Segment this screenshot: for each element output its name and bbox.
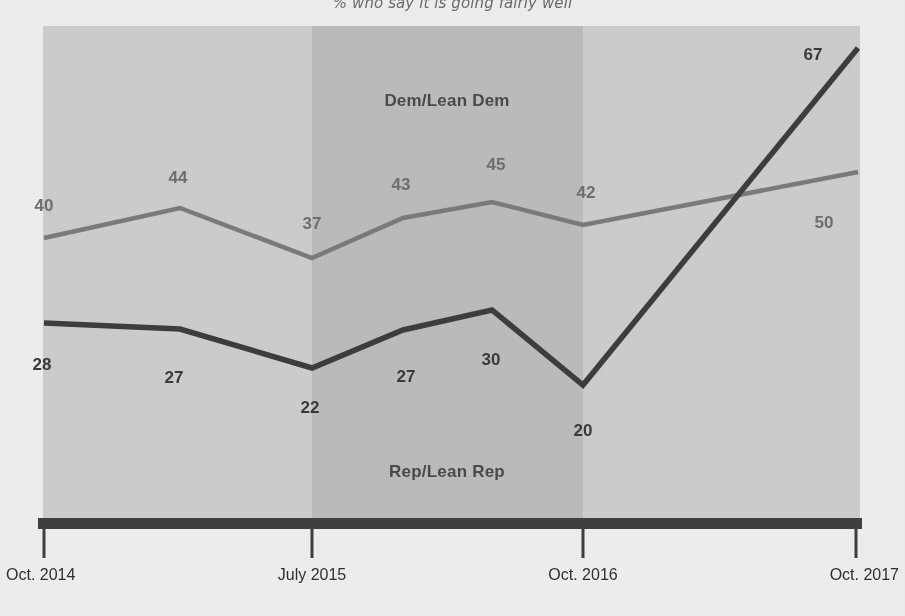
data-label-dem-3: 43	[392, 175, 411, 195]
data-label-rep-2: 22	[301, 398, 320, 418]
data-label-dem-5: 42	[577, 183, 596, 203]
x-axis-label-3: Oct. 2017	[830, 566, 899, 584]
x-axis	[38, 518, 862, 558]
data-label-rep-6: 67	[804, 45, 823, 65]
x-axis-label-2: Oct. 2016	[548, 566, 617, 584]
data-label-rep-0: 28	[33, 355, 52, 375]
data-label-rep-4: 30	[482, 350, 501, 370]
x-axis-bar	[38, 518, 862, 529]
data-label-rep-5: 20	[574, 421, 593, 441]
data-label-dem-0: 40	[35, 196, 54, 216]
series-annotation-dem: Dem/Lean Dem	[384, 91, 509, 111]
data-label-dem-1: 44	[169, 168, 188, 188]
data-label-dem-2: 37	[303, 214, 322, 234]
data-label-dem-6: 50	[815, 213, 834, 233]
x-axis-label-1: July 2015	[278, 566, 347, 584]
data-label-dem-4: 45	[487, 155, 506, 175]
series-annotation-rep: Rep/Lean Rep	[389, 462, 505, 482]
band-oct2014-july2015	[43, 26, 312, 522]
x-axis-label-0: Oct. 2014	[6, 566, 75, 584]
chart-canvas: % who say it is going fairly well 40 44 …	[0, 0, 905, 616]
data-label-rep-3: 27	[397, 367, 416, 387]
data-label-rep-1: 27	[165, 368, 184, 388]
